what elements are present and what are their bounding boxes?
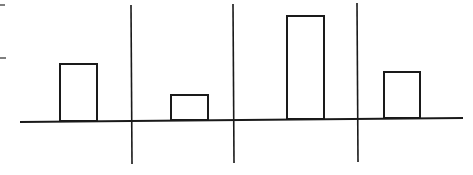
bars-group: [60, 16, 420, 121]
edge-ticks: [0, 5, 6, 58]
divider-line-3: [357, 3, 358, 162]
bar-1: [60, 64, 97, 121]
bar-diagram: [0, 0, 473, 175]
divider-line-1: [131, 5, 132, 164]
divider-line-2: [233, 4, 234, 163]
bar-4: [384, 72, 420, 118]
bar-3: [287, 16, 324, 119]
bar-2: [171, 95, 208, 120]
